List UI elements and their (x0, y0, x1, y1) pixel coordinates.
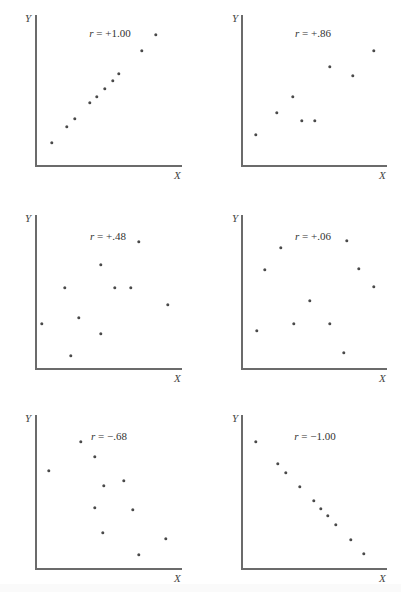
y-axis-label: Y (232, 413, 238, 424)
data-point (291, 95, 294, 98)
correlation-label: r = +.48 (90, 231, 126, 242)
data-point (300, 119, 303, 122)
y-axis-label: Y (232, 213, 238, 224)
x-axis-label: X (174, 573, 181, 584)
data-point (308, 299, 311, 302)
r-value: = −1.00 (299, 430, 336, 442)
data-point (351, 74, 354, 77)
data-point (63, 286, 66, 289)
y-axis (35, 215, 37, 369)
data-point (334, 523, 337, 526)
x-axis-label: X (379, 573, 386, 584)
data-point (99, 263, 102, 266)
data-point (111, 79, 114, 82)
data-point (313, 119, 316, 122)
correlation-label: r = +.06 (295, 231, 331, 242)
data-point (372, 285, 375, 288)
correlation-label: r = +1.00 (89, 28, 130, 39)
data-point (275, 111, 278, 114)
y-axis-label: Y (25, 413, 31, 424)
r-value: = −.68 (95, 430, 127, 442)
x-axis-label: X (379, 373, 386, 384)
y-axis (35, 15, 37, 166)
cropped-caption-strip (0, 584, 401, 592)
data-point (77, 316, 80, 319)
data-point (79, 440, 82, 443)
data-point (362, 552, 365, 555)
correlation-scatterplot-figure: Y X r = +1.00 Y X r = +.86 Y X r = +.48 … (0, 0, 401, 592)
data-point (349, 538, 352, 541)
data-point (65, 125, 68, 128)
x-axis (35, 568, 182, 570)
data-point (88, 101, 91, 104)
data-point (137, 553, 140, 556)
x-axis (241, 165, 387, 167)
data-point (103, 87, 106, 90)
data-point (102, 484, 105, 487)
data-point (372, 49, 375, 52)
data-point (357, 267, 360, 270)
data-point (284, 471, 287, 474)
data-point (69, 354, 72, 357)
correlation-label: r = −1.00 (294, 431, 335, 442)
r-value: = +1.00 (94, 27, 131, 39)
data-point (263, 268, 266, 271)
x-axis (241, 368, 387, 370)
y-axis (241, 415, 243, 569)
data-point (345, 239, 348, 242)
data-point (254, 440, 257, 443)
x-axis-label: X (379, 170, 386, 181)
data-point (312, 499, 315, 502)
data-point (326, 514, 329, 517)
y-axis (241, 215, 243, 369)
x-axis (241, 568, 387, 570)
data-point (328, 322, 331, 325)
data-point (254, 133, 257, 136)
y-axis-label: Y (232, 13, 238, 24)
data-point (279, 246, 282, 249)
correlation-label: r = −.68 (91, 431, 127, 442)
data-point (298, 485, 301, 488)
data-point (166, 303, 169, 306)
r-value: = +.86 (299, 27, 331, 39)
x-axis-label: X (174, 373, 181, 384)
data-point (117, 72, 120, 75)
data-point (319, 507, 322, 510)
data-point (50, 141, 53, 144)
data-point (95, 95, 98, 98)
data-point (276, 462, 279, 465)
data-point (154, 33, 157, 36)
data-point (113, 286, 116, 289)
data-point (255, 329, 258, 332)
x-axis (35, 368, 182, 370)
data-point (164, 537, 167, 540)
y-axis (35, 415, 37, 569)
correlation-label: r = +.86 (295, 28, 331, 39)
data-point (47, 469, 50, 472)
data-point (93, 506, 96, 509)
data-point (101, 531, 104, 534)
x-axis-label: X (174, 170, 181, 181)
data-point (137, 240, 140, 243)
data-point (292, 322, 295, 325)
data-point (93, 455, 96, 458)
data-point (328, 65, 331, 68)
data-point (129, 286, 132, 289)
data-point (131, 508, 134, 511)
data-point (140, 49, 143, 52)
x-axis (35, 165, 182, 167)
data-point (40, 322, 43, 325)
data-point (73, 117, 76, 120)
data-point (99, 332, 102, 335)
y-axis-label: Y (25, 213, 31, 224)
r-value: = +.06 (299, 230, 331, 242)
data-point (122, 479, 125, 482)
y-axis-label: Y (25, 13, 31, 24)
data-point (342, 351, 345, 354)
y-axis (241, 15, 243, 166)
r-value: = +.48 (94, 230, 126, 242)
